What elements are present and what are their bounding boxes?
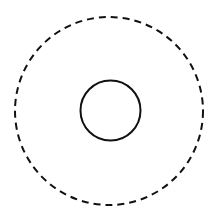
concentric-circles-diagram bbox=[0, 0, 217, 217]
background bbox=[0, 0, 217, 217]
